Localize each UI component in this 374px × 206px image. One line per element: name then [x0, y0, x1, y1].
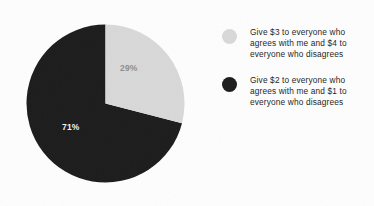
pie-chart-figure: 29% 71% Give $3 to everyone who agrees w… [0, 0, 374, 206]
legend-swatch-dark-icon [222, 77, 237, 92]
legend-item-give-3-and-4[interactable]: Give $3 to everyone who agrees with me a… [222, 27, 370, 61]
legend-label-give-3-and-4: Give $3 to everyone who agrees with me a… [250, 27, 368, 61]
pie-chart-svg [16, 14, 196, 194]
legend-item-give-2-and-1[interactable]: Give $2 to everyone who agrees with me a… [222, 75, 370, 109]
chart-legend: Give $3 to everyone who agrees with me a… [222, 27, 370, 122]
pie-chart: 29% 71% [16, 14, 196, 194]
legend-label-give-2-and-1: Give $2 to everyone who agrees with me a… [250, 75, 368, 109]
legend-swatch-light-icon [222, 29, 237, 44]
